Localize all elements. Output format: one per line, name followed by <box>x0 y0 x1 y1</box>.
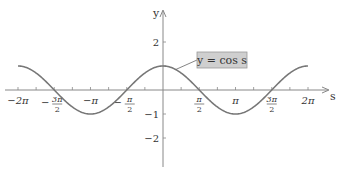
svg-text:3π: 3π <box>267 95 278 104</box>
y-tick-label: 2 <box>153 37 159 48</box>
x-tick-fraction-label: π2 <box>194 95 204 114</box>
y-tick-label: −2 <box>144 133 159 144</box>
svg-text:2: 2 <box>197 105 202 114</box>
svg-text:π: π <box>126 95 133 104</box>
x-tick-label: −2π <box>7 95 29 106</box>
x-axis-label: s <box>330 90 336 103</box>
x-tick-label: π <box>231 95 239 106</box>
svg-text:2: 2 <box>55 105 60 114</box>
x-tick-label: −π <box>83 95 98 106</box>
x-tick-label: 2π <box>301 95 315 106</box>
cosine-chart: −2π−3π2−π−π2π2π3π22π2−1−2 y = cos s y s <box>0 0 341 172</box>
svg-text:−: − <box>41 97 49 108</box>
annotation-label: y = cos s <box>196 54 247 67</box>
x-tick-fraction-label: −3π2 <box>41 95 63 114</box>
x-tick-fraction-label: −π2 <box>114 95 135 114</box>
annotation-leader-line <box>176 60 197 70</box>
x-tick-fraction-label: 3π2 <box>267 95 278 114</box>
svg-text:π: π <box>196 95 203 104</box>
curve-annotation: y = cos s <box>176 52 248 70</box>
y-tick-label: −1 <box>144 109 159 120</box>
y-axis-label: y <box>152 7 160 20</box>
svg-text:2: 2 <box>269 105 274 114</box>
svg-text:2: 2 <box>127 105 132 114</box>
